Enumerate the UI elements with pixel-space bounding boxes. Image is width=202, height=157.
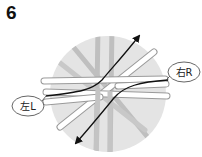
label-right-bubble: 右R bbox=[166, 62, 200, 82]
label-right: 右R bbox=[176, 66, 193, 78]
weaving-diagram: 右R 左L bbox=[0, 0, 202, 157]
label-left-bubble: 左L bbox=[12, 96, 46, 116]
label-left: 左L bbox=[20, 100, 36, 112]
